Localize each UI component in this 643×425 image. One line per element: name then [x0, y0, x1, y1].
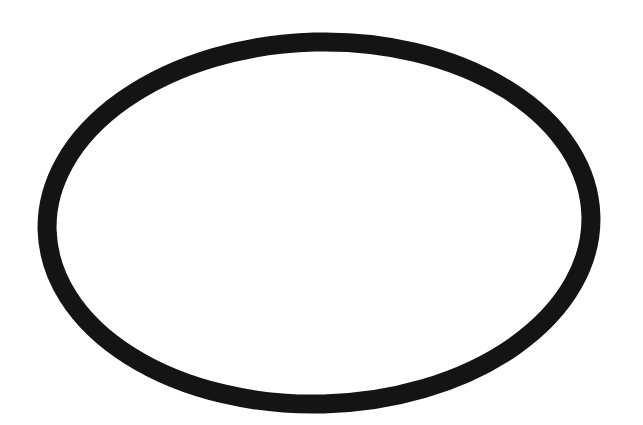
- black-oval-outline: [42, 35, 595, 411]
- oval-drawing: [0, 0, 643, 425]
- drawing-canvas: [0, 0, 643, 425]
